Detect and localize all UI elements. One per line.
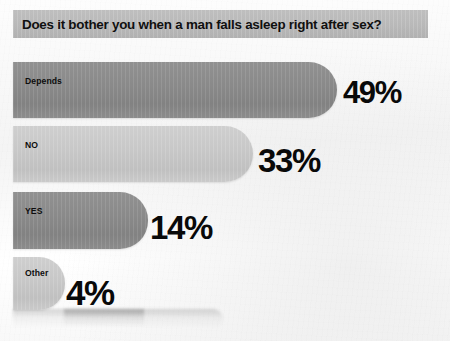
bar-no xyxy=(13,126,253,182)
bar-value-other: 4% xyxy=(66,275,114,310)
bar-row-no xyxy=(13,126,428,182)
bar-label-other: Other xyxy=(25,268,48,278)
chart-title-band: Does it bother you when a man falls asle… xyxy=(13,10,428,38)
poll-poster: Does it bother you when a man falls asle… xyxy=(0,0,450,341)
bar-chart: Depends 49% NO 33% YES 14% Other 4% xyxy=(0,0,450,341)
bar-other xyxy=(13,257,65,310)
bar-label-yes: YES xyxy=(25,206,43,216)
bar-yes xyxy=(13,192,148,249)
bar-row-yes xyxy=(13,192,428,249)
bar-value-no: 33% xyxy=(258,144,320,177)
bar-label-depends: Depends xyxy=(25,76,62,86)
bar-value-depends: 49% xyxy=(343,77,401,108)
bar-value-yes: 14% xyxy=(150,211,212,244)
page-title: Does it bother you when a man falls asle… xyxy=(13,17,382,32)
bar-depends xyxy=(13,62,337,118)
bar-label-no: NO xyxy=(25,140,38,150)
